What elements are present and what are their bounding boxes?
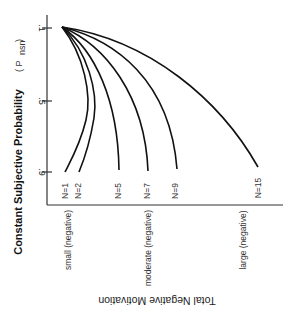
y-axis-title: Constant Subjective Probability xyxy=(12,88,24,255)
x-category-moderate: moderate (negative) xyxy=(143,210,153,286)
y-symbol-open: ( P xyxy=(14,60,24,72)
curve-label-n1: N=1 xyxy=(60,183,70,199)
curve-n2 xyxy=(62,27,95,172)
curve-n5 xyxy=(62,27,119,170)
y-symbol-close: ) xyxy=(14,39,24,42)
y-tick-label: .5 xyxy=(37,97,47,105)
y-tick-label: .9 xyxy=(37,168,47,176)
curve-label-n9: N=9 xyxy=(170,183,180,199)
curve-label-n2: N=2 xyxy=(73,183,83,199)
y-axis-symbol: ( P nsn ) xyxy=(14,39,27,72)
curve-label-n7: N=7 xyxy=(142,183,152,199)
curve-label-n15: N=15 xyxy=(253,177,263,198)
x-category-large: large (negative) xyxy=(238,210,248,269)
x-category-small: small (negative) xyxy=(63,210,73,270)
x-axis-title: Total Negative Motivation xyxy=(98,295,215,307)
chart-canvas: .1 .5 .9 N=1 N=2 N=5 N=7 N=9 N=15 small … xyxy=(0,0,295,321)
curve-n15 xyxy=(62,27,258,167)
curve-label-n5: N=5 xyxy=(113,183,123,199)
y-tick-label: .1 xyxy=(37,24,47,32)
